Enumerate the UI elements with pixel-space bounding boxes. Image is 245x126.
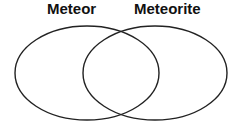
meteorite-label: Meteorite — [134, 0, 201, 18]
meteor-label: Meteor — [47, 0, 96, 18]
meteor-circle — [15, 26, 159, 120]
meteorite-circle — [83, 26, 227, 120]
venn-diagram: Meteor Meteorite — [0, 0, 245, 126]
venn-circles — [0, 0, 245, 126]
